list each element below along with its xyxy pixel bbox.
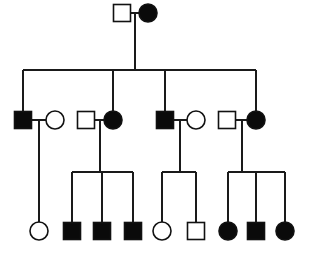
sibship-family-D [228,120,285,222]
individual-III-1-female-unaffected[interactable] [30,222,48,240]
generation-1-group [114,4,158,70]
pedigree-canvas [0,0,309,254]
individual-III-8-male-affected[interactable] [248,223,265,240]
individual-II-3-male-unaffected[interactable] [78,112,95,129]
generation-2-group [15,111,266,129]
sibship-family-C [162,120,196,222]
individual-II-8-female-affected[interactable] [247,111,265,129]
individual-III-9-female-affected[interactable] [276,222,294,240]
individual-III-5-female-unaffected[interactable] [153,222,171,240]
individual-II-7-male-unaffected[interactable] [219,112,236,129]
individual-III-2-male-affected[interactable] [64,223,81,240]
generation-3-group [30,222,294,240]
individual-III-3-male-affected[interactable] [94,223,111,240]
individual-I-2-female-affected[interactable] [139,4,157,22]
individual-III-4-male-affected[interactable] [125,223,142,240]
individual-II-4-female-affected[interactable] [104,111,122,129]
individual-II-6-female-unaffected[interactable] [187,111,205,129]
sibship-family-B [72,120,133,222]
individual-II-5-male-affected[interactable] [157,112,174,129]
individual-I-1-male-unaffected[interactable] [114,5,131,22]
individual-II-2-female-unaffected[interactable] [46,111,64,129]
individual-III-6-male-unaffected[interactable] [188,223,205,240]
pedigree-chart [0,0,309,254]
individual-II-1-male-affected[interactable] [15,112,32,129]
individual-III-7-female-affected[interactable] [219,222,237,240]
sibship-generation-1-children [23,70,256,111]
